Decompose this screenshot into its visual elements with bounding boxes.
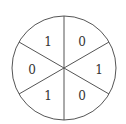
sector-label-top-right: 0 [78,35,86,49]
sector-label-top-left: 1 [44,35,52,49]
sector-label-bottom-left: 1 [44,89,52,103]
spinner-diagram: 1 0 1 0 1 0 [0,0,126,124]
sector-label-bottom-right: 0 [78,89,86,103]
sector-label-left: 0 [28,63,36,77]
sector-label-right: 1 [95,63,103,77]
